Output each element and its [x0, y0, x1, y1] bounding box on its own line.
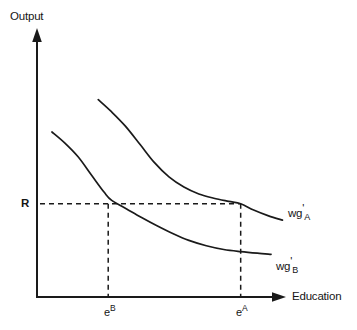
curve-wg-prime-a — [98, 100, 282, 220]
x-axis-arrow-icon — [272, 292, 286, 302]
curve-a-subscript: A — [304, 212, 310, 222]
y-axis-arrow-icon — [32, 28, 42, 42]
curve-a-base: wg — [288, 207, 302, 219]
y-tick-label-reservation: R — [21, 198, 29, 210]
x-tick-label-ea: eA — [236, 304, 248, 318]
y-axis-label: Output — [10, 11, 43, 23]
x-tick-ea-superscript: A — [242, 303, 248, 313]
x-tick-eb-superscript: B — [110, 303, 116, 313]
curve-label-wg-prime-b: wg'B — [276, 256, 298, 275]
curve-wg-prime-b — [52, 132, 271, 254]
curve-b-subscript: B — [292, 265, 298, 275]
chart-figure: Output Education R eB eA wg'A wg'B — [0, 0, 357, 330]
x-tick-label-eb: eB — [104, 304, 116, 318]
curve-b-base: wg — [276, 260, 290, 272]
chart-canvas — [0, 0, 357, 330]
x-axis-label: Education — [292, 291, 341, 303]
curve-label-wg-prime-a: wg'A — [288, 203, 310, 222]
